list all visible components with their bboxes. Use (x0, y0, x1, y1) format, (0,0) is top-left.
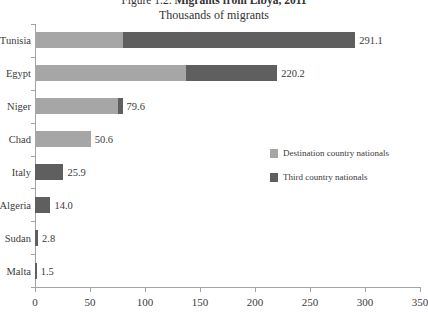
bar-row[interactable] (35, 164, 63, 180)
y-axis-tick (31, 221, 35, 222)
bar-row[interactable] (35, 131, 91, 147)
x-axis-tick (145, 287, 146, 292)
bar-row[interactable] (35, 197, 50, 213)
y-axis-category-label: Algeria (0, 199, 31, 210)
y-axis-tick (31, 156, 35, 157)
x-axis-tick-label: 150 (192, 296, 209, 308)
bar-row[interactable] (35, 98, 123, 114)
bar-segment[interactable] (35, 65, 186, 81)
legend-item[interactable]: Third country nationals (270, 172, 389, 182)
x-axis-tick-label: 100 (137, 296, 154, 308)
bar-row[interactable] (35, 32, 355, 48)
y-axis-category-labels: TunisiaEgyptNigerChadItalyAlgeriaSudanMa… (0, 24, 31, 287)
bar-segment[interactable] (35, 131, 91, 147)
figure-title-prefix: Figure 1.2. (121, 0, 174, 6)
x-axis-tick (255, 287, 256, 292)
x-axis-tick-label: 0 (32, 296, 38, 308)
legend-label: Destination country nationals (283, 148, 389, 158)
y-axis-tick (31, 57, 35, 58)
y-axis-tick (31, 287, 35, 288)
bar-segment[interactable] (35, 230, 38, 246)
legend-swatch-icon (270, 149, 278, 158)
bar-segment[interactable] (118, 98, 123, 114)
x-axis-tick (365, 287, 366, 292)
x-axis-tick-label: 200 (247, 296, 264, 308)
x-axis-line (35, 287, 420, 288)
bar-segment[interactable] (35, 164, 63, 180)
chart-title-block: Figure 1.2. Migrants from Libya, 2011 Th… (0, 0, 428, 22)
y-axis-tick (31, 24, 35, 25)
bar-value-label: 79.6 (127, 101, 145, 112)
y-axis-line (35, 24, 36, 287)
bar-segment[interactable] (186, 65, 278, 81)
bar-segment[interactable] (35, 32, 123, 48)
x-axis-tick (200, 287, 201, 292)
chart-legend: Destination country nationalsThird count… (270, 148, 389, 196)
figure-title-main: Migrants from Libya, 2011 (174, 0, 306, 6)
x-axis-tick (90, 287, 91, 292)
bar-value-label: 2.8 (42, 232, 55, 243)
x-axis-tick-label: 50 (85, 296, 96, 308)
bar-value-label: 25.9 (67, 166, 85, 177)
bar-value-label: 291.1 (359, 35, 383, 46)
y-axis-category-label: Sudan (5, 232, 31, 243)
x-axis-tick (35, 287, 36, 292)
bar-value-label: 14.0 (54, 199, 72, 210)
bar-segment[interactable] (35, 98, 118, 114)
legend-swatch-icon (270, 173, 278, 182)
bar-value-label: 50.6 (95, 134, 113, 145)
y-axis-tick (31, 90, 35, 91)
bar-segment[interactable] (123, 32, 355, 48)
x-axis-tick-label: 350 (412, 296, 428, 308)
bar-segment[interactable] (35, 197, 50, 213)
bar-row[interactable] (35, 65, 277, 81)
y-axis-category-label: Egypt (6, 68, 31, 79)
y-axis-tick (31, 123, 35, 124)
bar-segment[interactable] (35, 263, 37, 279)
chart-subtitle: Thousands of migrants (0, 8, 428, 22)
legend-item[interactable]: Destination country nationals (270, 148, 389, 158)
legend-label: Third country nationals (283, 172, 367, 182)
x-axis-tick (420, 287, 421, 292)
y-axis-category-label: Chad (9, 134, 31, 145)
y-axis-tick (31, 254, 35, 255)
bar-value-label: 1.5 (41, 265, 54, 276)
x-axis-tick (310, 287, 311, 292)
bar-row[interactable] (35, 263, 37, 279)
y-axis-category-label: Malta (7, 265, 32, 276)
y-axis-category-label: Niger (7, 101, 31, 112)
x-axis-tick-label: 250 (302, 296, 319, 308)
figure-title: Figure 1.2. Migrants from Libya, 2011 (0, 0, 428, 7)
y-axis-category-label: Tunisia (0, 35, 31, 46)
bar-row[interactable] (35, 230, 38, 246)
x-axis-tick-label: 300 (357, 296, 374, 308)
bar-value-label: 220.2 (281, 68, 305, 79)
y-axis-tick (31, 188, 35, 189)
y-axis-category-label: Italy (12, 166, 31, 177)
